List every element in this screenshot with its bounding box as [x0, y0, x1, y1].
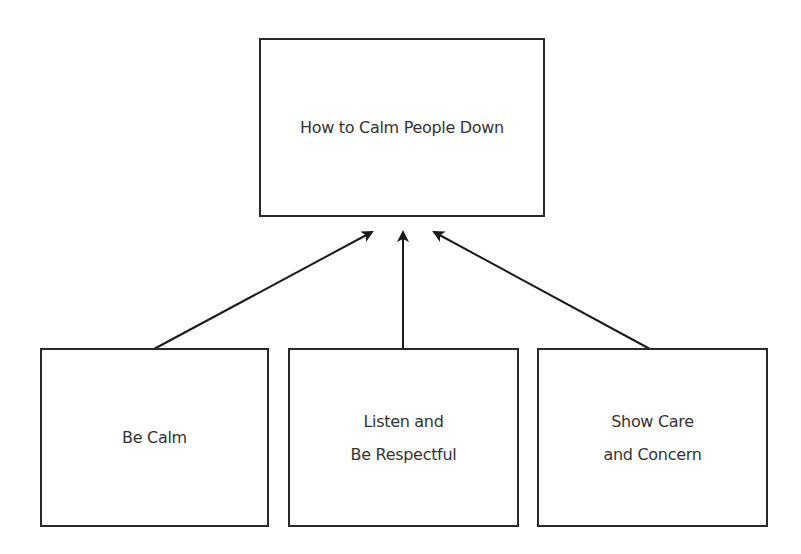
child-node-be-calm: Be Calm	[40, 348, 269, 527]
arrow-show-care	[434, 232, 650, 349]
child-node-label: Be Calm	[122, 421, 187, 454]
child-node-show-care: Show Care and Concern	[537, 348, 768, 527]
child-node-label: Show Care and Concern	[603, 405, 701, 471]
top-node-box: How to Calm People Down	[259, 38, 545, 217]
top-node-label: How to Calm People Down	[300, 111, 504, 144]
child-node-listen: Listen and Be Respectful	[288, 348, 519, 527]
child-node-label: Listen and Be Respectful	[351, 405, 457, 471]
arrow-be-calm	[154, 232, 372, 349]
